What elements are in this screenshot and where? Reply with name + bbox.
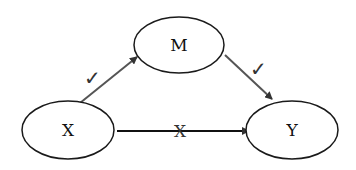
node-x-label: X [62, 120, 75, 140]
edge-x-to-m: ✓ [80, 57, 137, 103]
mediation-diagram: ✓ ✓ X M X Y [0, 0, 356, 170]
node-m: M [134, 17, 224, 73]
edge-m-to-y: ✓ [225, 55, 272, 99]
edge-x-to-y-cross-mark: X [174, 121, 187, 141]
edge-x-to-m-check-mark: ✓ [84, 66, 101, 90]
edge-x-to-y: X [117, 121, 249, 141]
node-x: X [22, 101, 114, 159]
node-m-label: M [170, 35, 187, 55]
edge-m-to-y-check-mark: ✓ [250, 57, 267, 81]
node-y-label: Y [285, 120, 298, 140]
node-y: Y [246, 101, 338, 159]
